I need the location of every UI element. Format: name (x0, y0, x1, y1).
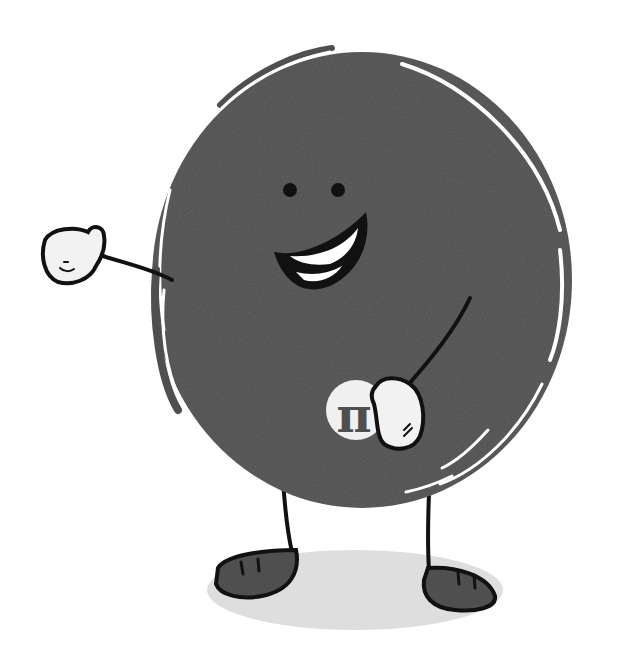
holding-glove (372, 378, 423, 448)
pi-symbol: π (336, 387, 371, 443)
left-eye (283, 183, 297, 197)
pi-character-illustration: π (0, 0, 617, 666)
right-eye (331, 183, 345, 197)
illustration-canvas: π (0, 0, 617, 666)
waving-glove (43, 227, 104, 283)
